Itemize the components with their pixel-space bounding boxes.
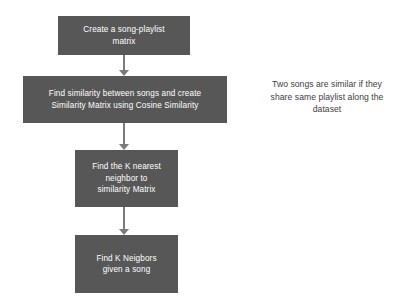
flowchart-node-label: Find similarity between songs and create…: [27, 88, 223, 111]
flowchart-node-line: neighbor to: [105, 174, 147, 183]
flowchart-node-line: similarity Matrix: [97, 185, 155, 194]
flowchart-node-line: Create a song-playlist: [83, 25, 164, 34]
flowchart-canvas: Create a song-playlist matrix Find simil…: [0, 0, 416, 307]
flowchart-annotation: Two songs are similar if they share same…: [252, 78, 402, 116]
annotation-line: share same playlist along the: [252, 91, 402, 104]
flowchart-node-label: Find the K nearest neighbor to similarit…: [79, 161, 174, 196]
flowchart-node-line: Find K Neigbors: [96, 254, 156, 263]
annotation-line: Two songs are similar if they: [252, 78, 402, 91]
flowchart-node-label: Find K Neigbors given a song: [79, 253, 174, 276]
flowchart-node-line: matrix: [113, 37, 136, 46]
flowchart-node-line: Find the K nearest: [92, 162, 161, 171]
flowchart-node-line: given a song: [103, 265, 151, 274]
arrow-stem: [123, 207, 125, 229]
flowchart-node-k-nearest-neighbor[interactable]: Find the K nearest neighbor to similarit…: [75, 150, 178, 207]
flowchart-node-create-matrix[interactable]: Create a song-playlist matrix: [58, 16, 190, 55]
flowchart-node-line: Similarity Matrix using Cosine Similarit…: [52, 101, 199, 110]
arrow-down-icon: [117, 123, 131, 150]
annotation-line: dataset: [252, 103, 402, 116]
arrow-stem: [123, 55, 125, 70]
flowchart-node-label: Create a song-playlist matrix: [62, 24, 186, 47]
flowchart-node-find-k-neighbors[interactable]: Find K Neigbors given a song: [75, 235, 178, 293]
arrow-down-icon: [117, 207, 131, 235]
flowchart-node-similarity-matrix[interactable]: Find similarity between songs and create…: [23, 76, 227, 123]
flowchart-node-line: Find similarity between songs and create: [49, 89, 201, 98]
arrow-down-icon: [117, 55, 131, 76]
arrow-stem: [123, 123, 125, 144]
